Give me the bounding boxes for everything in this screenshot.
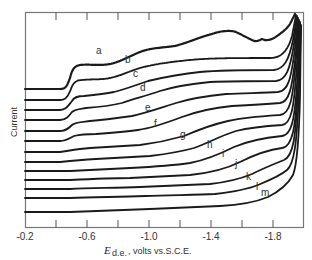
x-tick-label: -0.6 — [78, 231, 96, 242]
svg-text:k: k — [246, 171, 252, 182]
svg-text:d: d — [140, 82, 146, 93]
svg-text:i: i — [222, 148, 224, 159]
x-tick-label: -1.0 — [140, 231, 158, 242]
svg-text:b: b — [125, 54, 131, 65]
polarogram-chart: -0.2 -0.6 -1.0 -1.4 -1.8 E d.e. , volts … — [0, 0, 312, 260]
svg-text:c: c — [133, 68, 138, 79]
svg-text:h: h — [207, 139, 213, 150]
svg-text:a: a — [96, 45, 102, 56]
svg-text:, volts vs.S.C.E.: , volts vs.S.C.E. — [128, 246, 192, 256]
svg-text:m: m — [261, 187, 269, 198]
svg-text:d.e.: d.e. — [112, 248, 127, 258]
svg-text:E: E — [103, 244, 111, 256]
top-ticks — [56, 13, 273, 21]
svg-text:f: f — [154, 118, 157, 129]
x-tick-label: -1.8 — [264, 231, 282, 242]
curve-l — [25, 25, 301, 198]
svg-text:l: l — [256, 181, 258, 192]
curve-e — [25, 18, 298, 131]
curves — [25, 14, 301, 212]
y-axis-title: Current — [9, 106, 19, 137]
x-tick-label: -0.2 — [16, 231, 34, 242]
x-axis-title: E d.e. , volts vs.S.C.E. — [103, 244, 192, 258]
svg-text:e: e — [145, 102, 151, 113]
curve-f — [25, 19, 298, 141]
svg-text:g: g — [180, 129, 186, 140]
x-tick-label: -1.4 — [202, 231, 220, 242]
svg-text:j: j — [234, 158, 237, 169]
bottom-ticks — [56, 220, 273, 228]
